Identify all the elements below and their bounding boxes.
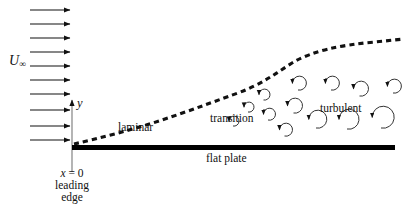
edge-text: edge (29, 191, 115, 203)
origin-equals-zero: = 0 (66, 167, 84, 179)
laminar-region-label: laminar (118, 121, 153, 133)
origin-x-equals-zero: x = 0 (29, 167, 115, 179)
boundary-layer-diagram: U∞ y x = 0 leading edge laminar transiti… (0, 0, 407, 219)
freestream-arrows (30, 10, 70, 140)
eddy-swirl (387, 79, 401, 93)
eddy-swirl (353, 81, 368, 96)
freestream-subscript: ∞ (19, 59, 26, 69)
eddy-swirl (259, 89, 270, 100)
transition-region-label: transition (210, 112, 253, 124)
freestream-velocity-label: U∞ (9, 54, 26, 70)
eddy-group (229, 76, 401, 136)
eddy-swirl (287, 98, 302, 113)
eddy-swirl (372, 106, 394, 128)
freestream-symbol: U (9, 53, 19, 68)
eddy-swirl (325, 76, 339, 90)
eddy-swirl (279, 123, 292, 136)
eddy-swirl (244, 102, 254, 112)
leading-edge-caption: x = 0 leading edge (29, 167, 115, 203)
flat-plate-bar (72, 145, 395, 150)
flat-plate-label: flat plate (206, 152, 247, 164)
eddy-swirl (263, 108, 275, 120)
y-axis-label: y (77, 97, 83, 110)
turbulent-region-label: turbulent (320, 102, 362, 114)
eddy-swirl (292, 76, 306, 90)
leading-text: leading (29, 179, 115, 191)
